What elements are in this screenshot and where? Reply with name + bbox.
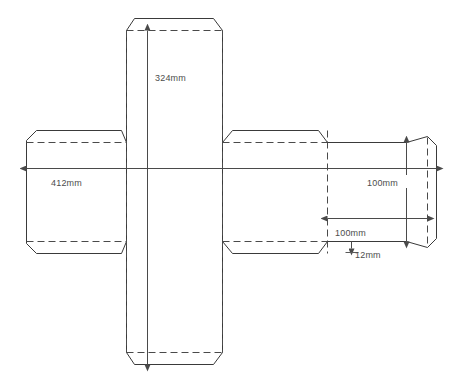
left-panel-cut-outline (27, 131, 127, 254)
middle-right-panel-bottom-cut (223, 242, 328, 254)
dimension-100mm-vertical-label: 100mm (367, 178, 398, 188)
dimension-412mm-label: 412mm (51, 178, 82, 188)
bottom-panel-group (127, 241, 223, 365)
centre-left-column-group (127, 143, 223, 242)
glue-flap-cut-outline (407, 137, 437, 248)
dieline-drawing-canvas: 324mm 412mm 100mm 100mm 12mm (0, 0, 456, 383)
dimension-12mm-label: 12mm (355, 250, 381, 260)
middle-right-panel-group (223, 131, 328, 254)
dimension-100mm-horizontal-label: 100mm (335, 228, 366, 238)
dieline-svg: 324mm 412mm 100mm 100mm 12mm (0, 0, 456, 383)
left-panel-group (27, 131, 127, 254)
dimension-12mm: 12mm (346, 242, 381, 261)
dimension-324mm: 324mm (148, 31, 203, 365)
bottom-panel-cut-outline (127, 241, 223, 365)
dimension-100mm-horizontal: 100mm (328, 219, 428, 239)
dimension-324mm-label: 324mm (155, 73, 186, 83)
middle-right-panel-top-cut (223, 131, 328, 143)
